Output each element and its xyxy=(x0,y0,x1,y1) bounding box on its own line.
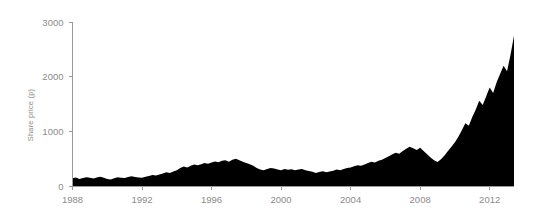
x-tick-label: 2000 xyxy=(271,194,292,205)
x-tick-label: 1996 xyxy=(201,194,222,205)
x-tick-label: 2008 xyxy=(410,194,431,205)
y-tick-label: 2000 xyxy=(42,71,63,82)
y-tick-label: 1000 xyxy=(42,126,63,137)
chart-canvas: 0100020003000 19881992199620002004200820… xyxy=(0,0,538,223)
y-tick-label: 0 xyxy=(58,181,63,192)
x-tick-label: 1992 xyxy=(131,194,152,205)
y-tick-label: 3000 xyxy=(42,17,63,28)
x-tick-label: 2012 xyxy=(479,194,500,205)
x-tick-label: 2004 xyxy=(340,194,361,205)
y-axis-title: Share price (p) xyxy=(26,88,35,141)
x-tick-label: 1988 xyxy=(62,194,83,205)
chart-background xyxy=(0,0,538,223)
share-price-chart: 0100020003000 19881992199620002004200820… xyxy=(0,0,538,223)
